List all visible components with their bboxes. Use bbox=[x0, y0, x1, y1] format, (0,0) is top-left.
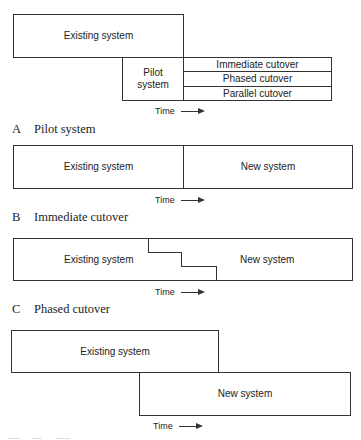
step-divider bbox=[148, 252, 182, 253]
caption-b: BImmediate cutover bbox=[12, 210, 128, 225]
option-label: Immediate cutover bbox=[216, 59, 298, 71]
option-label: Parallel cutover bbox=[223, 88, 292, 100]
time-axis-a: Time bbox=[155, 106, 203, 116]
parallel-existing-box: Existing system bbox=[11, 330, 219, 373]
parallel-new-box: New system bbox=[139, 372, 351, 416]
existing-system-label: Existing system bbox=[80, 346, 149, 358]
arrow-right-icon bbox=[181, 200, 203, 201]
caption-letter: B bbox=[12, 210, 34, 225]
immediate-existing-box: Existing system bbox=[13, 145, 184, 189]
time-label: Time bbox=[155, 195, 175, 205]
arrow-right-icon bbox=[181, 111, 203, 112]
existing-system-label: Existing system bbox=[64, 161, 133, 173]
phased-existing-label: Existing system bbox=[64, 254, 133, 265]
caption-c: CPhased cutover bbox=[12, 302, 110, 317]
illegible-caption-fragment bbox=[8, 438, 20, 439]
phased-new-label: New system bbox=[240, 254, 294, 265]
option-label: Phased cutover bbox=[223, 73, 293, 85]
step-divider bbox=[181, 266, 216, 267]
caption-title: Phased cutover bbox=[34, 302, 110, 316]
time-axis-d: Time bbox=[153, 421, 201, 431]
option-parallel-cutover: Parallel cutover bbox=[183, 86, 332, 101]
immediate-new-box: New system bbox=[183, 145, 353, 189]
caption-a: APilot system bbox=[12, 122, 95, 137]
step-divider bbox=[148, 238, 149, 253]
option-immediate-cutover: Immediate cutover bbox=[183, 57, 332, 72]
step-divider bbox=[181, 252, 182, 267]
arrow-right-icon bbox=[179, 426, 201, 427]
caption-letter: C bbox=[12, 302, 34, 317]
time-label: Time bbox=[155, 287, 175, 297]
caption-title: Immediate cutover bbox=[34, 210, 128, 224]
new-system-label: New system bbox=[241, 161, 295, 173]
time-label: Time bbox=[153, 421, 173, 431]
time-axis-b: Time bbox=[155, 195, 203, 205]
illegible-caption-fragment bbox=[56, 438, 70, 439]
time-axis-c: Time bbox=[155, 287, 203, 297]
caption-title: Pilot system bbox=[34, 122, 95, 136]
new-system-label: New system bbox=[218, 388, 272, 400]
existing-system-label: Existing system bbox=[64, 30, 133, 42]
arrow-right-icon bbox=[181, 292, 203, 293]
caption-letter: A bbox=[12, 122, 34, 137]
pilot-existing-system-box: Existing system bbox=[13, 14, 184, 58]
pilot-system-label: Pilot system bbox=[137, 67, 169, 91]
pilot-system-box: Pilot system bbox=[122, 57, 184, 101]
time-label: Time bbox=[155, 106, 175, 116]
illegible-caption-fragment bbox=[32, 438, 42, 439]
option-phased-cutover: Phased cutover bbox=[183, 71, 332, 87]
step-divider bbox=[216, 266, 217, 281]
